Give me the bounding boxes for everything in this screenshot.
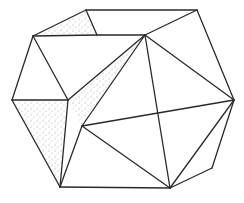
shaded-face-left-lower-quad bbox=[12, 100, 68, 187]
diagram-canvas: Polyhedron line drawing bbox=[0, 0, 244, 203]
polyhedron-drawing bbox=[0, 0, 244, 203]
edge-CF bbox=[12, 36, 33, 100]
edge-IK bbox=[82, 126, 170, 188]
edge-LH bbox=[212, 100, 234, 168]
shaded-faces bbox=[12, 10, 145, 187]
edge-BE bbox=[145, 10, 197, 35]
edge-CG bbox=[33, 36, 68, 100]
edges bbox=[12, 10, 234, 188]
edge-IH bbox=[82, 100, 234, 126]
edge-JK bbox=[60, 187, 170, 188]
edge-KL bbox=[170, 168, 212, 188]
edge-KH bbox=[170, 100, 234, 188]
shaded-face-center-triangle bbox=[68, 35, 145, 126]
